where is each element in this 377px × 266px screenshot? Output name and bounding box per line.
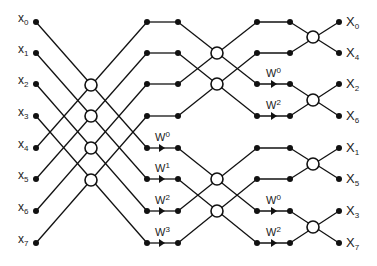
svg-text:W2: W2 [266,98,281,111]
input-labels: x0 x1 x2 x3 x4 x5 x6 x7 [18,11,29,248]
butterfly-node [307,31,319,43]
svg-text:x1: x1 [18,42,29,58]
svg-text:x2: x2 [18,73,29,89]
svg-text:W0: W0 [266,193,281,206]
svg-text:x3: x3 [18,105,29,121]
svg-text:X2: X2 [346,76,360,93]
arrow-icon [159,239,165,247]
arrow-icon [271,207,277,215]
arrow-icon [159,175,165,183]
arrow-icon [271,239,277,247]
svg-text:x7: x7 [18,232,29,248]
svg-text:X5: X5 [346,171,360,188]
svg-text:W1: W1 [155,161,170,174]
butterfly-node [211,173,223,185]
svg-text:X7: X7 [346,235,360,252]
svg-text:X3: X3 [346,203,360,220]
stage1-wires [36,22,147,243]
butterfly-nodes [85,31,319,233]
arrow-icon [159,207,165,215]
arrow-icon [159,144,165,152]
junction-dots [33,19,342,246]
svg-text:W2: W2 [266,225,281,238]
arrow-icon [271,112,277,120]
svg-text:X1: X1 [346,140,360,157]
butterfly-node [85,142,97,154]
stage1-twiddle-labels: W0 W1 W2 W3 [155,130,170,238]
butterfly-node [211,78,223,90]
svg-text:W3: W3 [155,225,170,238]
svg-text:x5: x5 [18,168,29,184]
butterfly-node [211,47,223,59]
stage3-wires [290,22,339,243]
svg-text:W2: W2 [155,193,170,206]
svg-text:X4: X4 [346,45,360,62]
butterfly-node [85,79,97,91]
fft-butterfly-diagram: x0 x1 x2 x3 x4 x5 x6 x7 X0 X4 X2 X6 X1 X… [0,0,377,266]
butterfly-node [85,110,97,122]
butterfly-node [307,158,319,170]
output-labels: X0 X4 X2 X6 X1 X5 X3 X7 [346,14,360,252]
svg-text:X0: X0 [346,14,360,31]
svg-text:x6: x6 [18,200,29,216]
svg-text:W0: W0 [266,66,281,79]
svg-text:x0: x0 [18,11,29,27]
butterfly-node [211,205,223,217]
svg-text:X6: X6 [346,108,360,125]
butterfly-node [307,94,319,106]
arrow-icon [271,80,277,88]
butterfly-node [85,174,97,186]
svg-text:W0: W0 [155,130,170,143]
diagram-canvas: x0 x1 x2 x3 x4 x5 x6 x7 X0 X4 X2 X6 X1 X… [0,0,377,266]
butterfly-node [307,221,319,233]
svg-text:x4: x4 [18,137,29,153]
